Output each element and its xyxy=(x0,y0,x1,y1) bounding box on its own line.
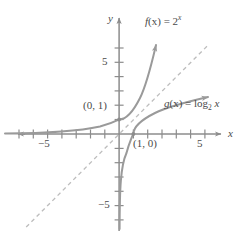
point-1-0 xyxy=(132,132,136,136)
log-fn-eq: = log xyxy=(182,97,208,109)
label-exponential-function: f(x) = 2x xyxy=(145,14,181,27)
label-y-intercept: (0, 1) xyxy=(83,100,107,111)
function-graph-figure: y x −5 5 5 −5 (0, 1) (1, 0) f(x) = 2x g(… xyxy=(0,0,252,237)
y-tick-label-minus5: −5 xyxy=(98,199,110,210)
x-tick-label-5: 5 xyxy=(197,138,203,149)
y-tick-label-5: 5 xyxy=(102,56,108,67)
x-tick-label-minus5: −5 xyxy=(38,138,50,149)
log-fn-arg: (x) xyxy=(170,97,183,109)
log-fn-tail: x xyxy=(212,97,220,109)
identity-line-y-equals-x xyxy=(26,46,208,228)
point-0-1 xyxy=(117,118,121,122)
graph-canvas xyxy=(0,0,252,237)
logarithm-curve xyxy=(120,97,208,229)
exp-fn-eq: = 2 xyxy=(161,15,178,27)
exp-fn-arg: (x) xyxy=(148,15,161,27)
exp-fn-exponent: x xyxy=(178,13,181,22)
x-axis-label: x xyxy=(228,128,233,139)
label-x-intercept: (1, 0) xyxy=(133,138,157,149)
y-axis-label: y xyxy=(108,13,113,24)
label-logarithm-function: g(x) = log2 x xyxy=(164,98,219,112)
